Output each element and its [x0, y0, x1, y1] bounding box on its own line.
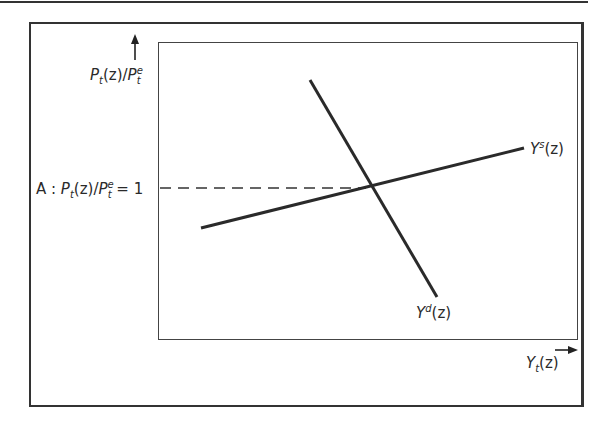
y-axis-arrow-icon — [131, 34, 139, 60]
supply-curve — [201, 148, 524, 228]
y-axis-label: Pt(z)/Pet — [90, 66, 141, 86]
supply-curve-label: Ys(z) — [530, 140, 564, 157]
plot-svg — [0, 0, 606, 422]
x-axis-arrow-icon — [555, 346, 578, 354]
x-axis-label: Yt(z) — [526, 356, 559, 374]
equilibrium-label: A : Pt(z)/Pet = 1 — [36, 180, 143, 200]
demand-curve-label: Yd(z) — [416, 304, 451, 321]
